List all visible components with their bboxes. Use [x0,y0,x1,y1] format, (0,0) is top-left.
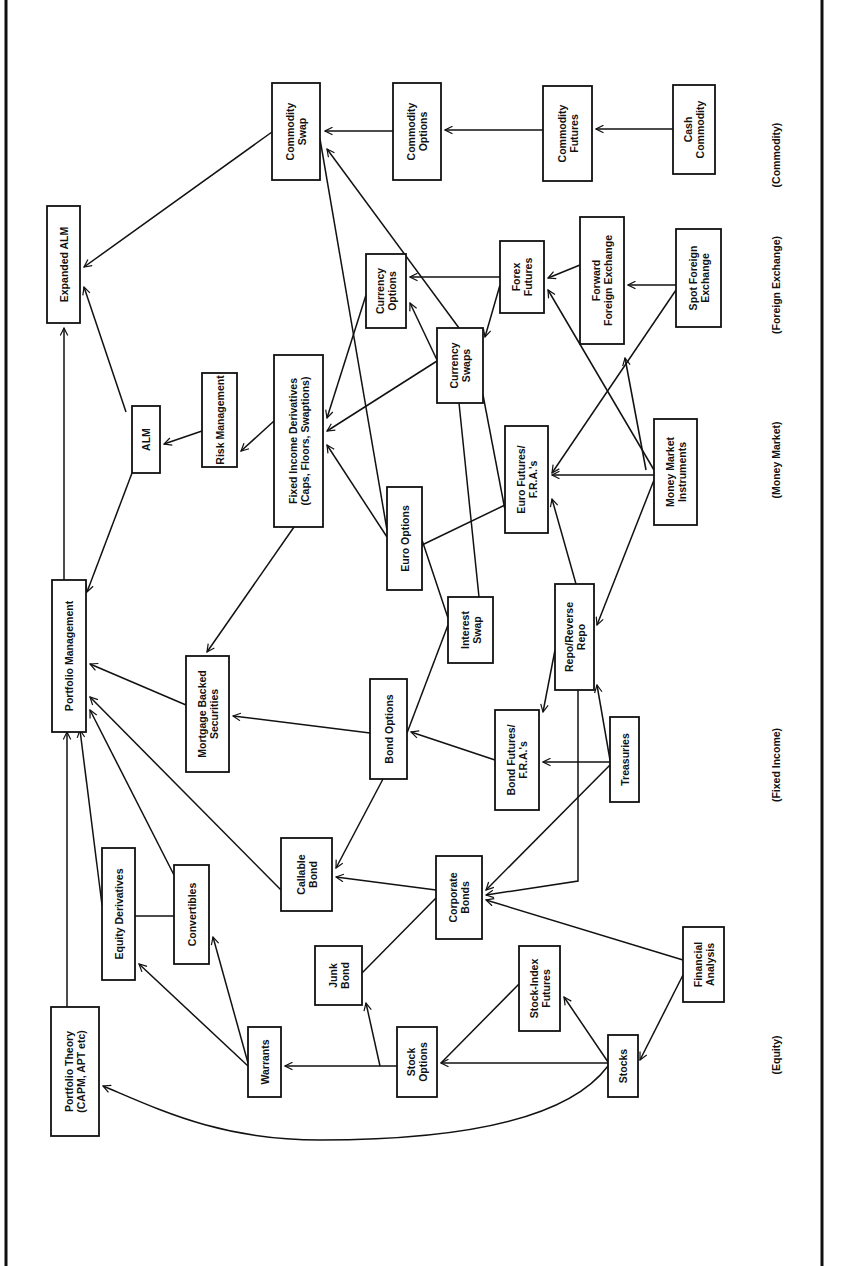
node-label: Fixed Income Derivatives [287,378,299,504]
node-commodity-futures: CommodityFutures [543,86,592,181]
node-bond-options: Bond Options [370,679,407,779]
node-label: Corporate [447,872,459,922]
node-label: Interest [459,611,471,649]
node-stock-index-futures: Stock-IndexFutures [519,946,560,1031]
node-callable-bond: CallableBond [281,838,332,911]
node-forex-futures: ForexFutures [500,241,544,313]
node-label: Callable [295,854,307,894]
node-label: Options [417,112,429,152]
node-label: Equity Derivatives [113,868,125,959]
node-spot-fx: Spot ForeignExchange [676,229,721,327]
node-label: ALM [140,428,152,451]
node-label: Bond Futures/ [505,724,517,795]
svg-text:(Money Market): (Money Market) [770,421,782,498]
node-warrants: Warrants [248,1027,281,1097]
node-junk-bond: JunkBond [315,946,362,1005]
node-label: Instruments [676,442,688,502]
node-euro-futures: Euro Futures/F.R.A.'s [505,426,548,533]
node-label: Foreign Exchange [602,235,614,326]
node-label: Repo [575,624,587,650]
node-label: Securities [208,689,220,739]
node-currency-swaps: CurrencySwaps [437,328,483,403]
node-label: Commodity [694,100,706,158]
node-label: Treasuries [619,733,631,786]
node-treasuries: Treasuries [610,717,639,802]
node-label: Futures [568,114,580,153]
node-label: Analysis [704,943,716,986]
svg-text:(Fixed Income): (Fixed Income) [770,728,782,802]
node-alm: ALM [132,406,160,473]
node-label: Swap [471,616,483,643]
node-label: Currency [448,342,460,388]
node-money-market-instruments: Money MarketInstruments [654,419,697,525]
node-label: Financial [692,942,704,988]
node-label: F.R.A.'s [517,741,529,779]
node-label: Bond [339,962,351,989]
node-equity-derivatives: Equity Derivatives [102,848,135,980]
node-label: Options [417,1042,429,1082]
node-euro-options: Euro Options [387,487,422,590]
node-label: Convertibles [186,883,198,947]
node-label: Stock [405,1048,417,1077]
node-commodity-swap: CommoditySwap [272,83,320,180]
category-label-money-market: (Money Market) [770,421,782,498]
node-fixed-income-derivatives: Fixed Income Derivatives(Caps, Floors, S… [274,355,323,527]
node-label: Futures [540,969,552,1008]
node-label: Commodity [405,102,417,160]
node-label: Portfolio Theory [63,1031,75,1112]
node-corporate-bonds: CorporateBonds [436,856,482,939]
node-label: Stock-Index [528,959,540,1019]
financial-instruments-diagram: Expanded ALMCommoditySwapCommodityOption… [0,0,852,1266]
node-interest-swap: InterestSwap [448,597,493,663]
category-label-commodity: (Commodity) [770,123,782,188]
node-label: Swap [296,118,308,145]
node-label: Forex [510,263,522,292]
node-label: Euro Futures/ [515,445,527,513]
node-label: Swaps [460,349,472,382]
node-label: Exchange [699,253,711,303]
category-label-foreign-exchange: (Foreign Exchange) [770,236,782,334]
node-label: (Caps, Floors, Swaptions) [299,377,311,506]
node-label: Bond Options [383,694,395,764]
node-label: Forward [590,260,602,301]
node-commodity-options: CommodityOptions [393,83,441,180]
node-label: (CAPM, APT etc) [75,1030,87,1112]
node-label: Commodity [284,102,296,160]
svg-text:(Commodity): (Commodity) [770,123,782,188]
node-label: Spot Foreign [687,246,699,311]
svg-text:(Foreign Exchange): (Foreign Exchange) [770,236,782,334]
node-label: Currency [374,268,386,314]
node-label: Expanded ALM [58,227,70,303]
node-stocks: Stocks [608,1035,638,1097]
node-label: Options [386,271,398,311]
node-stock-options: StockOptions [397,1027,437,1097]
node-label: Portfolio Management [63,600,75,711]
node-label: Bonds [459,881,471,914]
node-label: Mortgage Backed [196,670,208,758]
node-label: Money Market [664,436,676,507]
node-repo: Repo/ReverseRepo [555,584,594,690]
node-portfolio-theory: Portfolio Theory(CAPM, APT etc) [51,1007,99,1136]
node-label: Stocks [617,1049,629,1084]
node-label: Risk Management [214,375,226,465]
node-label: Futures [522,258,534,297]
node-label: Bond [307,861,319,888]
category-label-fixed-income: (Fixed Income) [770,728,782,802]
node-label: F.R.A.'s [527,461,539,499]
node-currency-options: CurrencyOptions [366,254,406,328]
node-label: Euro Options [399,505,411,572]
node-risk-management: Risk Management [202,373,237,467]
node-label: Cash [682,117,694,143]
node-label: Commodity [556,104,568,162]
node-financial-analysis: FinancialAnalysis [683,927,724,1002]
node-forward-fx: ForwardForeign Exchange [580,217,624,344]
node-cash-commodity: CashCommodity [673,85,715,174]
category-label-equity: (Equity) [770,1035,782,1074]
node-convertibles: Convertibles [174,865,209,964]
node-mortgage-backed: Mortgage BackedSecurities [186,656,229,772]
node-label: Warrants [259,1039,271,1084]
node-expanded-alm: Expanded ALM [47,206,80,323]
node-bond-futures: Bond Futures/F.R.A.'s [495,710,539,810]
node-label: Repo/Reverse [563,602,575,672]
node-label: Junk [327,963,339,988]
